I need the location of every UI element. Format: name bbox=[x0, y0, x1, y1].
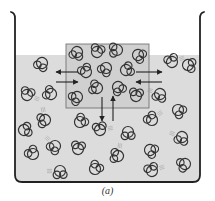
diffusion-diagram bbox=[0, 0, 215, 201]
figure-caption: (a) bbox=[0, 185, 215, 196]
